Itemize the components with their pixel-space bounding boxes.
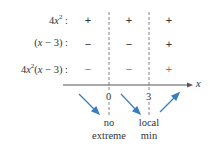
sign: + <box>163 14 175 26</box>
sign: + <box>123 14 135 26</box>
x-axis-arrowhead-icon <box>187 83 193 88</box>
sign: + <box>82 14 94 26</box>
annotation-local-min: localmin <box>134 116 164 142</box>
x-axis-label: x <box>196 78 201 89</box>
decreasing-arrow-icon <box>121 94 137 111</box>
decreasing-arrow-icon <box>79 94 96 111</box>
tick-0: 0 <box>106 91 111 102</box>
tick-3: 3 <box>146 91 151 102</box>
sign: − <box>82 38 94 50</box>
sign: − <box>123 63 135 75</box>
annotation-no-extreme: noextreme <box>84 116 134 142</box>
row-label-4x2: 4x2 : <box>49 13 68 26</box>
sign: + <box>163 63 175 75</box>
sign: + <box>163 38 175 50</box>
row-label-x-minus-3: (x − 3) : <box>34 37 68 48</box>
sign: − <box>123 38 135 50</box>
row-label-product: 4x2(x − 3) : <box>21 62 68 75</box>
sign: − <box>82 63 94 75</box>
